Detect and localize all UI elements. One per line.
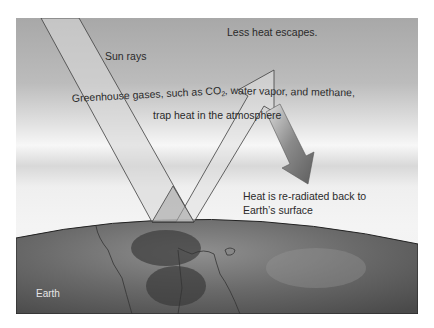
greenhouse-diagram [16,18,418,314]
greenhouse-gases-label-line2: trap heat in the atmosphere [153,109,281,122]
reradiated-label-line1: Heat is re-radiated back to [243,190,366,203]
earth-label: Earth [36,287,60,300]
sun-rays-label: Sun rays [105,50,146,63]
reradiated-label-line2: Earth’s surface [243,204,313,217]
diagram-frame: Sun rays Less heat escapes. Greenhouse g… [16,18,418,314]
less-heat-escapes-label: Less heat escapes. [227,26,317,39]
